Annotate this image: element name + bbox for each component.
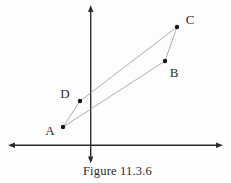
point-d-marker: [78, 99, 82, 103]
edge-ab: [63, 61, 165, 127]
point-a-label: A: [45, 123, 55, 138]
point-b-marker: [163, 59, 167, 63]
x-axis-right-arrow-icon: [216, 143, 223, 148]
point-c-label: C: [186, 12, 195, 27]
y-axis-up-arrow-icon: [88, 5, 93, 12]
point-c-marker: [175, 25, 179, 29]
figure-canvas: ABCD: [0, 0, 231, 183]
point-a-marker: [61, 125, 65, 129]
edge-cd: [80, 27, 177, 101]
edge-bc: [165, 27, 177, 61]
y-axis-down-arrow-icon: [88, 157, 93, 164]
figure: ABCD Figure 11.3.6: [0, 0, 231, 183]
edge-da: [63, 101, 80, 127]
figure-caption: Figure 11.3.6: [60, 164, 175, 179]
point-b-label: B: [170, 65, 179, 80]
point-d-label: D: [60, 86, 69, 101]
x-axis-left-arrow-icon: [8, 143, 15, 148]
